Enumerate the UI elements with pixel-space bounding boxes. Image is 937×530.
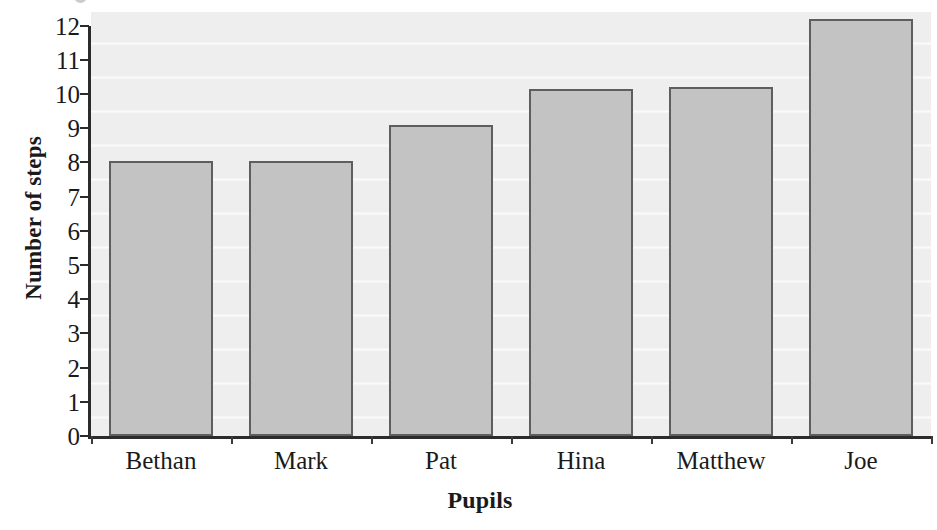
x-axis-tick-mark <box>931 436 933 444</box>
y-axis-tick-label: 2 <box>44 355 80 380</box>
bar <box>529 89 633 436</box>
y-axis-tick-labels: 0123456789101112 <box>44 0 80 445</box>
y-axis-tick-label: 0 <box>44 424 80 449</box>
y-axis-tick-label: 9 <box>44 116 80 141</box>
x-axis-tick-label: Mark <box>274 446 328 476</box>
x-axis-tick-mark <box>511 436 513 444</box>
x-axis-tick-label: Pat <box>425 446 457 476</box>
x-axis-tick-mark <box>91 436 93 444</box>
x-axis-tick-label: Matthew <box>677 446 766 476</box>
x-axis-tick-label: Bethan <box>126 446 197 476</box>
bar <box>669 87 773 436</box>
y-axis-tick-label: 1 <box>44 389 80 414</box>
y-axis-tick-label: 11 <box>44 47 80 72</box>
x-axis-tick-label: Joe <box>844 446 877 476</box>
y-axis-tick-label: 6 <box>44 218 80 243</box>
bar <box>389 125 493 436</box>
x-axis-tick-mark <box>371 436 373 444</box>
y-axis-tick-label: 7 <box>44 184 80 209</box>
y-axis-tick-label: 3 <box>44 321 80 346</box>
y-axis-tick-label: 10 <box>44 82 80 107</box>
bar <box>249 161 353 436</box>
y-axis-tick-label: 8 <box>44 150 80 175</box>
x-axis-tick-label: Hina <box>557 446 606 476</box>
bars-layer <box>91 12 931 436</box>
x-axis-title: Pupils <box>0 487 937 514</box>
y-axis-tick-label: 5 <box>44 253 80 278</box>
x-axis-tick-mark <box>791 436 793 444</box>
x-axis-line <box>88 436 931 439</box>
x-axis-tick-mark <box>231 436 233 444</box>
plot-area <box>91 12 931 436</box>
bar <box>109 161 213 436</box>
x-axis-tick-mark <box>651 436 653 444</box>
y-axis-tick-label: 4 <box>44 287 80 312</box>
y-axis-tick-label: 12 <box>44 13 80 38</box>
x-axis-tick-labels: BethanMarkPatHinaMatthewJoe <box>91 446 931 486</box>
bar <box>809 19 913 436</box>
